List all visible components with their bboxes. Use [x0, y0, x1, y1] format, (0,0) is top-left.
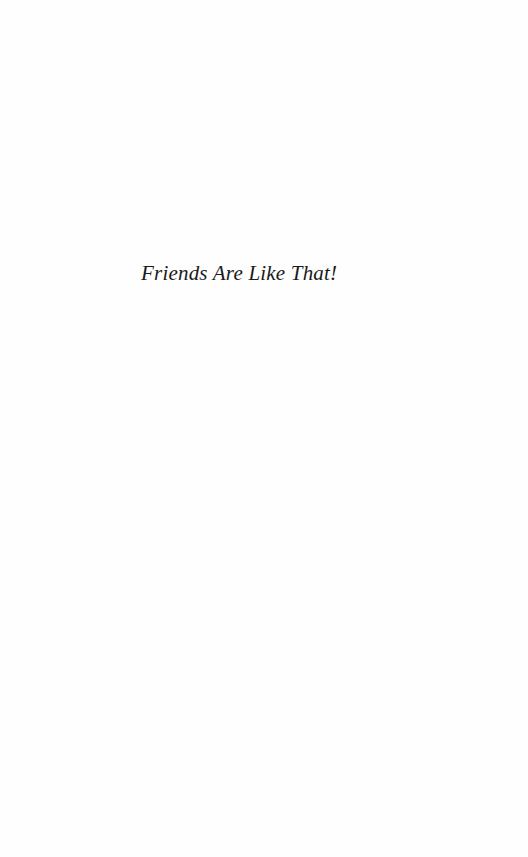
half-title: Friends Are Like That!	[141, 261, 337, 285]
book-half-title-page: Friends Are Like That!	[0, 0, 528, 857]
